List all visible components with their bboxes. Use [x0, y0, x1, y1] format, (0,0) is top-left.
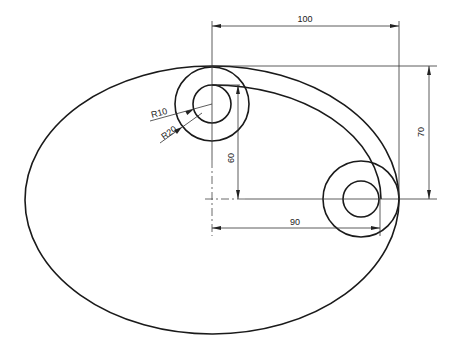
dimension-70-label: 70 [416, 127, 426, 137]
dimension-90: 90 [212, 199, 380, 236]
dimension-100: 100 [212, 14, 399, 28]
dimension-60: 60 [212, 85, 240, 199]
radius-r20-label: R20 [159, 124, 178, 142]
radius-r10-label: R10 [150, 106, 169, 120]
dimension-70: 70 [416, 66, 431, 199]
dimension-60-label: 60 [226, 153, 236, 163]
technical-drawing: 100 70 60 90 R10 R20 [0, 0, 456, 351]
radius-r20-leader: R20 [159, 113, 202, 143]
dimension-90-label: 90 [290, 217, 300, 227]
radius-r10-leader: R10 [150, 104, 212, 121]
dimension-100-label: 100 [297, 14, 312, 24]
